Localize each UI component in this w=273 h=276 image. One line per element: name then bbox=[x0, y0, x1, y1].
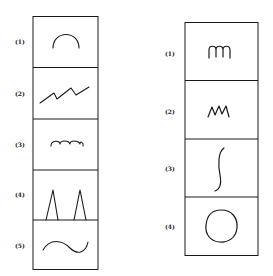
circle-shape bbox=[206, 210, 237, 242]
two-peaks-shape bbox=[46, 190, 86, 220]
left-label-4: (4) bbox=[15, 191, 25, 198]
arch-shape bbox=[53, 35, 79, 49]
left-label-3: (3) bbox=[15, 141, 25, 148]
left-label-5: (5) bbox=[15, 242, 25, 249]
left-box bbox=[33, 17, 98, 270]
right-label-1: (1) bbox=[165, 50, 175, 57]
cursive-m-shape bbox=[209, 46, 230, 58]
scallop-shape bbox=[51, 141, 83, 146]
cursive-w-shape bbox=[208, 106, 229, 117]
integral-shape bbox=[215, 148, 224, 191]
right-label-4: (4) bbox=[165, 223, 175, 230]
sine-wave-shape bbox=[43, 242, 88, 253]
right-label-2: (2) bbox=[165, 108, 175, 115]
right-box bbox=[185, 23, 258, 256]
left-label-2: (2) bbox=[15, 90, 25, 97]
right-label-3: (3) bbox=[165, 165, 175, 172]
zigzag-shape bbox=[40, 87, 89, 103]
figure-canvas bbox=[0, 0, 273, 276]
left-label-1: (1) bbox=[15, 38, 25, 45]
